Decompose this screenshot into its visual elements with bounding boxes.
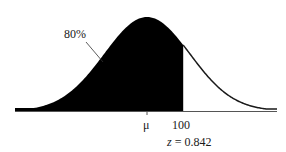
shaded-area <box>15 17 183 111</box>
mean-tick-label: μ <box>143 118 149 132</box>
z-value: = 0.842 <box>172 135 212 149</box>
annotation-pointer <box>86 42 103 62</box>
area-label: 80% <box>64 27 86 41</box>
curve-line <box>183 45 277 109</box>
value-tick-label: 100 <box>172 118 190 132</box>
z-score-label: z = 0.842 <box>167 135 211 149</box>
